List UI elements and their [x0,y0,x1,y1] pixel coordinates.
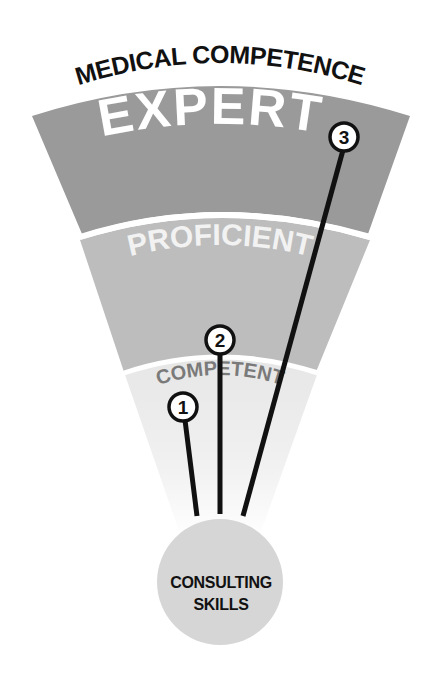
marker-1: 1 [169,393,197,421]
marker-2: 2 [206,326,234,354]
marker-3: 3 [330,123,358,151]
marker-2-number: 2 [215,330,226,351]
marker-1-number: 1 [178,397,189,418]
core-consulting-skills: CONSULTING SKILLS [157,519,283,645]
competence-fan-diagram: MEDICAL COMPETENCE EXPERT PROFICIENT COM… [0,0,430,692]
core-label-line1: CONSULTING [170,574,272,591]
marker-3-number: 3 [339,127,350,148]
core-label-line2: SKILLS [193,596,249,613]
